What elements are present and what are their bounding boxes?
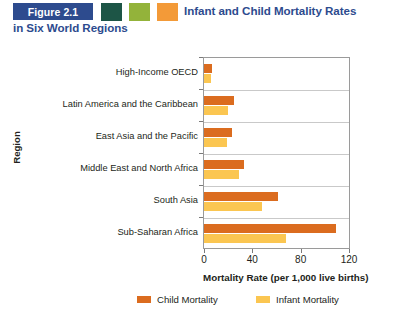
- plot-area: [203, 57, 350, 249]
- bar-child-mortality: [204, 64, 212, 73]
- bar-group: [204, 122, 349, 154]
- bar-infant-mortality: [204, 106, 228, 115]
- figure-title-line-2: in Six World Regions: [13, 21, 128, 35]
- bar-child-mortality: [204, 128, 232, 137]
- decor-swatch-orange: [157, 3, 178, 21]
- bar-child-mortality: [204, 96, 234, 105]
- x-axis-tick-label: 0: [201, 254, 207, 265]
- legend-label-child-mortality: Child Mortality: [157, 294, 218, 305]
- figure-header: Figure 2.1 Infant and Child Mortality Ra…: [0, 0, 399, 46]
- x-axis-title: Mortality Rate (per 1,000 live births): [203, 272, 350, 283]
- bar-group: [204, 186, 349, 218]
- y-axis-label: High-Income OECD: [0, 67, 198, 77]
- x-axis-tick: [301, 249, 302, 253]
- x-axis-tick-label: 80: [295, 254, 306, 265]
- legend-label-infant-mortality: Infant Mortality: [276, 294, 339, 305]
- legend-swatch-infant-mortality: [256, 296, 270, 303]
- bar-infant-mortality: [204, 234, 286, 243]
- x-axis-tick: [252, 249, 253, 253]
- bar-child-mortality: [204, 160, 244, 169]
- bar-child-mortality: [204, 192, 278, 201]
- bar-child-mortality: [204, 224, 336, 233]
- bar-infant-mortality: [204, 138, 227, 147]
- y-axis-label: Latin America and the Caribbean: [0, 99, 198, 109]
- bar-infant-mortality: [204, 202, 262, 211]
- y-axis-label: South Asia: [0, 195, 198, 205]
- decor-swatch-green-light: [129, 3, 150, 21]
- bar-group: [204, 218, 349, 250]
- x-axis-tick-label: 40: [247, 254, 258, 265]
- bar-group: [204, 58, 349, 90]
- legend-item-infant-mortality: Infant Mortality: [256, 294, 339, 305]
- bar-infant-mortality: [204, 74, 211, 83]
- decor-swatch-green-dark: [101, 3, 122, 21]
- x-axis-tick-label: 120: [341, 254, 358, 265]
- x-axis-tick: [204, 249, 205, 253]
- bar-group: [204, 90, 349, 122]
- x-axis-tick: [349, 249, 350, 253]
- y-axis-label: Middle East and North Africa: [0, 163, 198, 173]
- chart-container: Region High-Income OECDLatin America and…: [0, 46, 399, 324]
- y-axis-category-labels: High-Income OECDLatin America and the Ca…: [0, 57, 198, 249]
- legend-swatch-child-mortality: [137, 296, 151, 303]
- y-axis-label: Sub-Saharan Africa: [0, 227, 198, 237]
- chart-legend: Child Mortality Infant Mortality: [0, 294, 399, 314]
- figure-number-badge: Figure 2.1: [13, 3, 93, 20]
- bar-group: [204, 154, 349, 186]
- y-axis-label: East Asia and the Pacific: [0, 131, 198, 141]
- figure-title-line-1: Infant and Child Mortality Rates: [184, 4, 396, 18]
- legend-item-child-mortality: Child Mortality: [137, 294, 218, 305]
- bar-infant-mortality: [204, 170, 239, 179]
